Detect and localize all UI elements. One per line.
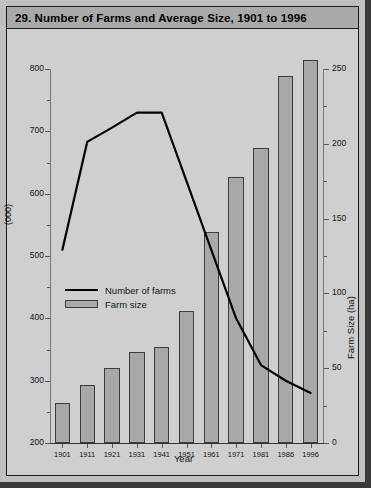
figure-card: 29. Number of Farms and Average Size, 19… (6, 6, 359, 476)
figure-title-bar: 29. Number of Farms and Average Size, 19… (7, 7, 358, 29)
chart-legend: Number of farms Farm size (65, 283, 176, 311)
legend-label: Farm size (105, 299, 147, 310)
legend-item-number-of-farms: Number of farms (65, 283, 176, 297)
number-of-farms-line (7, 29, 360, 476)
bar-swatch-icon (65, 300, 98, 308)
line-swatch-icon (65, 289, 98, 291)
legend-label: Number of farms (105, 285, 176, 296)
chart-plot-area: (000) Farm Size (ha) Year 20030040050060… (7, 29, 360, 476)
legend-item-farm-size: Farm size (65, 297, 176, 311)
screenshot-page: 29. Number of Farms and Average Size, 19… (0, 0, 371, 488)
figure-caption: 29. Number of Farms and Average Size, 19… (7, 12, 307, 24)
